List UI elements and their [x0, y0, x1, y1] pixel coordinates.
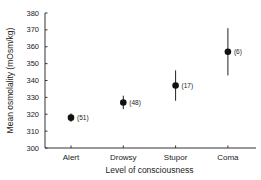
y-tick-label: 350 [26, 59, 39, 68]
data-points: (51)(48)(17)(6) [68, 28, 242, 122]
data-point [225, 49, 232, 56]
y-tick-label: 340 [26, 76, 39, 85]
x-tick-label: Alert [63, 153, 80, 162]
y-tick-label: 300 [26, 144, 39, 153]
axes [45, 13, 256, 148]
x-tick-label: Stupor [164, 153, 188, 162]
x-tick-label: Coma [217, 153, 239, 162]
y-axis-title: Mean osmolality (mOsm/kg) [5, 27, 15, 133]
y-tick-label: 330 [26, 93, 39, 102]
n-label: (6) [234, 48, 242, 56]
y-tick-label: 360 [26, 42, 39, 51]
x-axis-title: Level of consciousness [106, 165, 194, 175]
x-tick-label: Drowsy [110, 153, 137, 162]
n-label: (17) [182, 82, 194, 90]
data-point [120, 99, 127, 106]
data-point [172, 82, 179, 89]
chart: 300310320330340350360370380 AlertDrowsyS… [0, 0, 261, 180]
n-label: (51) [77, 114, 89, 122]
y-tick-label: 380 [26, 9, 39, 18]
y-tick-label: 320 [26, 110, 39, 119]
y-ticks: 300310320330340350360370380 [26, 9, 47, 153]
data-point [68, 114, 75, 121]
n-label: (48) [129, 99, 141, 107]
y-tick-label: 370 [26, 25, 39, 34]
y-tick-label: 310 [26, 127, 39, 136]
